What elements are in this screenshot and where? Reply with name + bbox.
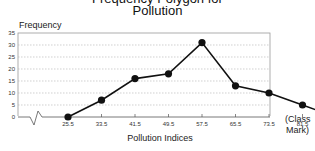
data-point [64, 113, 71, 120]
data-point [265, 89, 272, 96]
y-tick-label: 0 [12, 114, 16, 120]
data-point [198, 39, 205, 46]
plot-frame [18, 33, 270, 117]
data-point [165, 70, 172, 77]
y-tick-label: 20 [8, 66, 15, 72]
y-tick-label: 30 [8, 42, 15, 48]
y-tick-label: 35 [8, 30, 15, 36]
x-axis-label: Pollution Indices [127, 133, 193, 143]
y-tick-label: 15 [8, 78, 15, 84]
x-tick-label: 65.5 [230, 121, 242, 127]
frequency-polygon-chart: 0510152025303525.533.541.549.557.565.573… [0, 0, 315, 151]
x-tick-label: 73.5 [263, 121, 275, 127]
y-tick-label: 25 [8, 54, 15, 60]
y-axis-label: Frequency [19, 20, 62, 30]
x-note-line1: (Class [285, 114, 311, 124]
y-tick-label: 5 [12, 102, 16, 108]
y-tick-label: 10 [8, 90, 15, 96]
x-tick-label: 49.5 [163, 121, 175, 127]
data-point [98, 97, 105, 104]
data-point [131, 75, 138, 82]
frequency-line [68, 43, 315, 117]
x-note-line2: Mark) [286, 125, 309, 135]
x-tick-label: 33.5 [96, 121, 108, 127]
data-point [299, 101, 306, 108]
x-tick-label: 25.5 [62, 121, 74, 127]
x-tick-label: 41.5 [129, 121, 141, 127]
data-point [232, 82, 239, 89]
x-tick-label: 57.5 [196, 121, 208, 127]
